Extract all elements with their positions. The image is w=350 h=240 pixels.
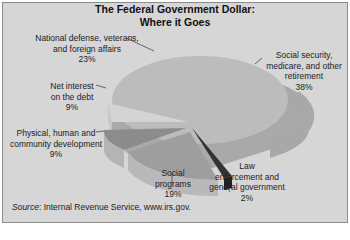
label-value: 2%: [200, 193, 294, 204]
label-text: community development: [6, 139, 106, 150]
label-text: general government: [200, 182, 294, 193]
label-text: programs: [148, 179, 198, 190]
label-text: National defense, veterans,: [28, 33, 146, 44]
label-physical-development: Physical, human and community developmen…: [6, 128, 106, 160]
label-text: and foreign affairs: [28, 44, 146, 55]
label-value: 9%: [6, 149, 106, 160]
label-text: on the debt: [44, 92, 100, 103]
label-text: Social: [148, 168, 198, 179]
label-text: Net interest: [44, 81, 100, 92]
label-value: 19%: [148, 189, 198, 200]
label-text: Social security,: [258, 50, 350, 61]
label-text: Law: [200, 161, 294, 172]
label-net-interest: Net interest on the debt 9%: [44, 81, 100, 113]
label-social-programs: Social programs 19%: [148, 168, 198, 200]
source-prefix: Source: [12, 202, 39, 212]
label-text: Physical, human and: [6, 128, 106, 139]
label-law-enforcement: Law enforcement and general government 2…: [200, 161, 294, 203]
label-social-security: Social security, medicare, and other ret…: [258, 50, 350, 92]
label-value: 23%: [28, 54, 146, 65]
label-value: 38%: [258, 82, 350, 93]
source-text: : Internal Revenue Service, www.irs.gov.: [39, 202, 191, 212]
source-note: Source: Internal Revenue Service, www.ir…: [12, 202, 191, 212]
label-defense: National defense, veterans, and foreign …: [28, 33, 146, 65]
label-text: medicare, and other: [258, 61, 350, 72]
label-value: 9%: [44, 102, 100, 113]
label-text: enforcement and: [200, 172, 294, 183]
label-text: retirement: [258, 71, 350, 82]
